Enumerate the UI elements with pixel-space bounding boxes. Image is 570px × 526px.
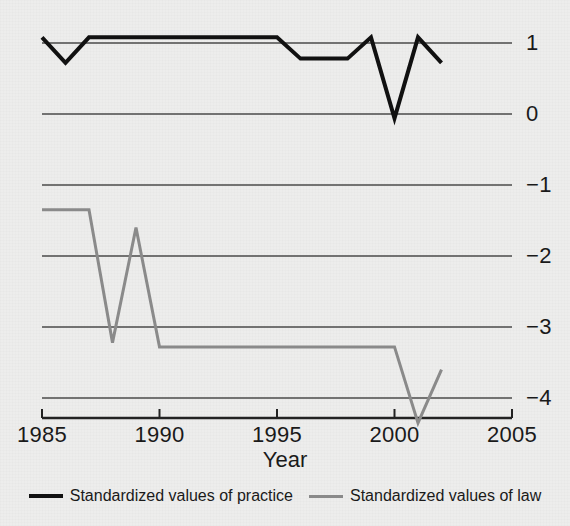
y-tick-label: −3 <box>526 316 552 338</box>
legend-label-law: Standardized values of law <box>350 487 541 505</box>
x-tick-label: 1995 <box>252 424 302 446</box>
legend-line-swatch-law <box>309 495 343 498</box>
y-tick-label: −4 <box>526 387 552 409</box>
chart-legend: Standardized values of practice Standard… <box>0 487 570 505</box>
series-line-law <box>42 210 442 423</box>
chart-page: 10−1−2−3−4 19851990199520002005 Year Sta… <box>0 0 570 526</box>
legend-item-practice: Standardized values of practice <box>29 487 293 505</box>
y-tick-label: −2 <box>526 245 552 267</box>
series-line-practice <box>42 37 442 118</box>
gridlines <box>42 43 512 398</box>
x-tick-label: 2005 <box>487 424 537 446</box>
x-tick-label: 1985 <box>17 424 67 446</box>
x-axis-ticks <box>42 409 512 418</box>
legend-line-swatch-practice <box>29 494 63 498</box>
x-tick-label: 1990 <box>134 424 184 446</box>
legend-item-law: Standardized values of law <box>309 487 541 505</box>
x-tick-label: 2000 <box>369 424 419 446</box>
data-series <box>42 37 442 423</box>
y-tick-label: 0 <box>526 103 539 125</box>
y-tick-label: 1 <box>526 32 539 54</box>
y-tick-label: −1 <box>526 174 552 196</box>
x-axis-title: Year <box>0 447 570 473</box>
legend-label-practice: Standardized values of practice <box>70 487 293 505</box>
